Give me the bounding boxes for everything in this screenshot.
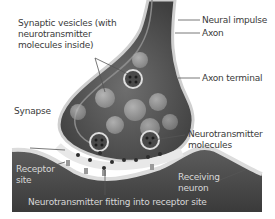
label-axon-terminal: Axon terminal (202, 73, 262, 84)
label-synapse: Synapse (14, 106, 51, 117)
label-axon: Axon (202, 28, 224, 39)
label-neural-impulse: Neural impulse (202, 15, 267, 26)
label-neurotransmitter-fitting: Neurotransmitter fitting into receptor s… (28, 197, 207, 208)
label-receiving-neuron: Receiving neuron (178, 172, 228, 194)
synapse-diagram: Synaptic vesicles (with neurotransmitter… (0, 0, 275, 219)
label-neurotransmitter-molecules: Neurotransmitter molecules (188, 129, 268, 151)
label-synaptic-vesicles: Synaptic vesicles (with neurotransmitter… (18, 18, 118, 51)
label-receptor-site: Receptor site (16, 164, 58, 186)
